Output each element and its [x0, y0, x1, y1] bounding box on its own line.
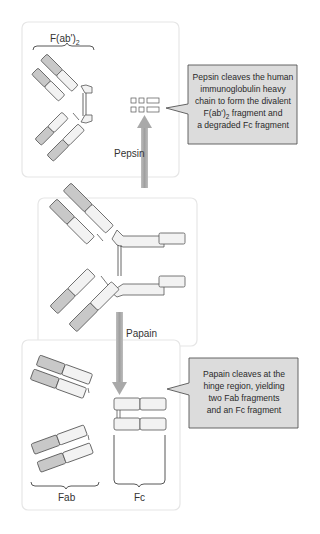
svg-text:Fc: Fc [134, 492, 145, 503]
svg-text:chain to form the divalent: chain to form the divalent [195, 96, 292, 106]
svg-text:Papain: Papain [126, 328, 157, 339]
svg-text:Pepsin: Pepsin [114, 148, 145, 159]
svg-text:Fab: Fab [58, 492, 76, 503]
svg-text:a degraded Fc fragment: a degraded Fc fragment [197, 120, 289, 130]
antibody-cleavage-diagram: F(ab')2 [0, 0, 320, 534]
svg-text:Pepsin cleaves the human: Pepsin cleaves the human [193, 72, 294, 82]
papain-products-panel: Fab Fc [22, 340, 180, 510]
papain-callout: Papain cleaves at the hinge region, yiel… [167, 358, 298, 428]
pepsin-callout: Pepsin cleaves the human immunoglobulin … [166, 65, 297, 144]
svg-text:hinge region, yielding: hinge region, yielding [203, 381, 284, 391]
svg-text:two Fab fragments: two Fab fragments [208, 393, 279, 403]
svg-text:Papain cleaves at the: Papain cleaves at the [203, 369, 285, 379]
svg-text:and an Fc fragment: and an Fc fragment [207, 405, 282, 415]
svg-text:immunoglobulin heavy: immunoglobulin heavy [200, 84, 286, 94]
